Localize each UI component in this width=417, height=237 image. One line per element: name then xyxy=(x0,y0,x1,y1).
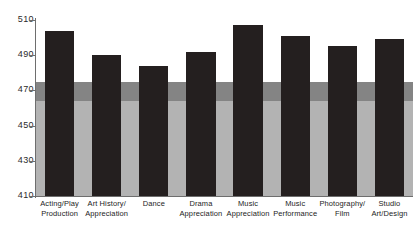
bar xyxy=(139,66,168,196)
category-label-line: Drama xyxy=(177,199,224,209)
category-label-line: Film xyxy=(319,209,366,219)
category-label-line: Photography/ xyxy=(319,199,366,209)
x-axis-category-label: DramaAppreciation xyxy=(177,199,224,219)
category-label-line: Dance xyxy=(130,199,177,209)
category-label-line: Music xyxy=(225,199,272,209)
y-axis-label-470: 470 xyxy=(4,84,34,94)
y-axis-label-430: 430 xyxy=(4,155,34,165)
bar xyxy=(45,31,74,196)
category-label-line: Production xyxy=(36,209,83,219)
x-axis-category-label: Dance xyxy=(130,199,177,209)
category-label-line: Performance xyxy=(272,209,319,219)
category-label-line: Acting/Play xyxy=(36,199,83,209)
y-axis-label-510: 510 xyxy=(4,14,34,24)
bar xyxy=(233,25,262,196)
bar-series xyxy=(36,20,413,196)
bar xyxy=(328,46,357,196)
x-axis-category-label: StudioArt/Design xyxy=(366,199,413,219)
y-axis-label-490: 490 xyxy=(4,49,34,59)
x-axis-category-label: MusicAppreciation xyxy=(225,199,272,219)
x-axis-line xyxy=(35,196,413,197)
bar xyxy=(281,36,310,196)
category-label-line: Music xyxy=(272,199,319,209)
y-axis-label-450: 450 xyxy=(4,120,34,130)
plot-area xyxy=(36,20,413,196)
x-axis-category-label: Art History/Appreciation xyxy=(83,199,130,219)
category-label-line: Art/Design xyxy=(366,209,413,219)
x-axis-category-label: Acting/PlayProduction xyxy=(36,199,83,219)
category-label-line: Appreciation xyxy=(83,209,130,219)
y-axis-label-410: 410 xyxy=(4,190,34,200)
bar xyxy=(186,52,215,196)
category-label-line: Appreciation xyxy=(177,209,224,219)
x-axis-category-label: MusicPerformance xyxy=(272,199,319,219)
category-label-line: Studio xyxy=(366,199,413,209)
category-label-line: Art History/ xyxy=(83,199,130,209)
bar xyxy=(375,39,404,196)
bar xyxy=(92,55,121,196)
bar-chart: 510 490 470 450 430 410 Acting/PlayProdu… xyxy=(0,0,417,237)
x-axis-category-labels: Acting/PlayProductionArt History/Appreci… xyxy=(36,199,413,235)
x-axis-category-label: Photography/Film xyxy=(319,199,366,219)
category-label-line: Appreciation xyxy=(225,209,272,219)
